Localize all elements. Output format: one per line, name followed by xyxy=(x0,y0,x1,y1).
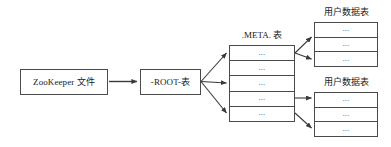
node-zookeeper-file-label: ZooKeeper 文件 xyxy=(33,78,95,87)
meta-table-cell: ... xyxy=(259,65,266,72)
user-data-table-1[interactable]: ... ... ... xyxy=(314,22,378,67)
meta-table-cell: ... xyxy=(259,95,266,102)
user-data-table-1-row[interactable]: ... xyxy=(315,38,377,53)
user-data-table-2-cell: ... xyxy=(343,96,350,103)
meta-table-cell: ... xyxy=(259,110,266,117)
user-data-table-2-cell: ... xyxy=(343,126,350,133)
user-data-table-1-cell: ... xyxy=(343,26,350,33)
meta-table-row[interactable]: ... xyxy=(230,76,294,91)
user-data-table-2-row[interactable]: ... xyxy=(315,122,377,136)
user-data-table-2[interactable]: ... ... ... xyxy=(314,92,378,137)
user-table-1-caption: 用户数据表 xyxy=(314,8,378,17)
meta-table[interactable]: ... ... ... ... ... xyxy=(229,45,295,122)
node-root-table-label: -ROOT-表 xyxy=(151,78,190,87)
user-data-table-1-row[interactable]: ... xyxy=(315,52,377,66)
connector-meta-to-user-table-2-row-3 xyxy=(295,113,312,128)
hbase-hierarchy-diagram: ZooKeeper 文件 -ROOT-表 .META. 表 ... ... ..… xyxy=(0,0,391,147)
connector-meta-to-user-table-1-row-1 xyxy=(295,37,312,53)
meta-table-row[interactable]: ... xyxy=(230,107,294,121)
user-data-table-1-cell: ... xyxy=(343,41,350,48)
meta-table-row[interactable]: ... xyxy=(230,46,294,61)
node-root-table[interactable]: -ROOT-表 xyxy=(140,69,201,95)
connector-root-to-meta-row-1 xyxy=(201,53,227,82)
meta-table-row[interactable]: ... xyxy=(230,92,294,107)
user-data-table-1-cell: ... xyxy=(343,56,350,63)
meta-table-cell: ... xyxy=(259,80,266,87)
user-data-table-1-row[interactable]: ... xyxy=(315,23,377,38)
connector-meta-to-user-table-1-row-2 xyxy=(295,53,312,59)
user-data-table-2-cell: ... xyxy=(343,111,350,118)
user-table-2-caption: 用户数据表 xyxy=(314,78,378,87)
meta-table-row[interactable]: ... xyxy=(230,61,294,76)
user-data-table-2-row[interactable]: ... xyxy=(315,93,377,108)
meta-table-caption: .META. 表 xyxy=(229,31,295,40)
user-data-table-2-row[interactable]: ... xyxy=(315,108,377,123)
node-zookeeper-file[interactable]: ZooKeeper 文件 xyxy=(20,69,108,95)
connector-root-to-meta-row-5 xyxy=(201,82,227,114)
connector-root-to-meta-row-3 xyxy=(201,82,227,84)
meta-table-cell: ... xyxy=(259,50,266,57)
